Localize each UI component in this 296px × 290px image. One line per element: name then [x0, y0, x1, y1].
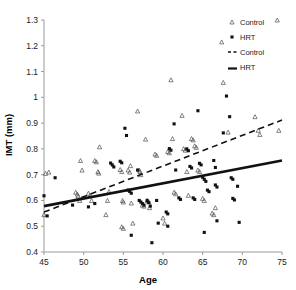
data-point-control	[143, 137, 147, 141]
data-point-control	[47, 170, 51, 174]
data-point-hrt	[173, 122, 176, 125]
data-point-hrt	[169, 149, 172, 152]
y-tick-label: 0.9	[26, 118, 38, 128]
data-point-control	[90, 198, 94, 202]
y-tick-label: 1	[33, 92, 38, 102]
data-point-control	[161, 216, 165, 220]
data-point-hrt	[123, 127, 126, 130]
data-point-hrt	[215, 185, 218, 188]
data-point-control	[121, 200, 125, 204]
trendline-hrt-solid	[44, 160, 282, 206]
x-axis-ticks: 45505560657075	[39, 252, 287, 267]
y-tick-label: 0.4	[26, 247, 38, 257]
chart-legend: ControlHRTControlHRT	[228, 18, 265, 72]
data-point-control	[80, 168, 84, 172]
y-tick-label: 1.3	[26, 15, 38, 25]
data-point-control	[275, 18, 279, 22]
data-point-control	[213, 206, 217, 210]
chart-container: 45505560657075 0.40.50.60.70.80.911.11.2…	[0, 0, 296, 290]
data-point-hrt	[187, 149, 190, 152]
legend-label: Control	[240, 18, 265, 27]
data-point-hrt	[236, 185, 239, 188]
y-axis-title: IMT (mm)	[3, 114, 14, 156]
data-point-hrt	[196, 109, 199, 112]
data-point-hrt	[150, 241, 153, 244]
data-point-hrt	[130, 192, 133, 195]
data-point-hrt	[87, 205, 90, 208]
data-point-hrt	[174, 168, 177, 171]
data-point-control	[186, 193, 190, 197]
y-tick-label: 0.5	[26, 221, 38, 231]
data-point-hrt	[215, 219, 218, 222]
data-point-hrt	[46, 214, 49, 217]
data-point-control	[170, 137, 174, 141]
y-axis-ticks: 0.40.50.60.70.80.911.11.21.3	[26, 15, 44, 257]
data-point-hrt	[166, 212, 169, 215]
y-tick-label: 0.8	[26, 144, 38, 154]
scatter-plot: 45505560657075 0.40.50.60.70.80.911.11.2…	[0, 0, 296, 290]
data-point-control	[258, 132, 262, 136]
data-point-hrt	[204, 180, 207, 183]
data-point-hrt	[125, 134, 128, 137]
data-point-control	[253, 115, 257, 119]
data-point-control	[221, 80, 225, 84]
x-tick-label: 45	[39, 257, 49, 267]
data-point-hrt	[112, 165, 115, 168]
data-point-hrt	[136, 168, 139, 171]
legend-label: HRT	[240, 33, 256, 42]
data-point-hrt	[200, 163, 203, 166]
x-tick-label: 75	[277, 257, 287, 267]
x-axis-title: Age	[139, 274, 157, 285]
data-point-hrt	[230, 35, 233, 38]
data-point-control	[104, 213, 108, 217]
x-tick-label: 50	[79, 257, 89, 267]
data-point-hrt	[166, 225, 169, 228]
data-point-control	[277, 128, 281, 132]
data-point-hrt	[147, 201, 150, 204]
data-point-hrt	[179, 198, 182, 201]
x-tick-label: 55	[119, 257, 129, 267]
data-point-control	[129, 201, 133, 205]
data-point-control	[78, 158, 82, 162]
data-point-hrt	[212, 159, 215, 162]
trend-lines	[44, 120, 282, 212]
data-point-hrt	[222, 131, 225, 134]
data-point-hrt	[214, 166, 217, 169]
data-point-hrt	[142, 204, 145, 207]
data-point-hrt	[190, 166, 193, 169]
data-point-hrt	[228, 115, 231, 118]
data-point-control	[136, 109, 140, 113]
data-point-control	[169, 78, 173, 82]
data-point-control	[180, 113, 184, 117]
data-point-control	[131, 221, 135, 225]
data-point-hrt	[120, 161, 123, 164]
data-point-hrt	[225, 94, 228, 97]
data-point-control	[128, 164, 132, 168]
data-point-hrt	[207, 190, 210, 193]
data-point-control	[185, 170, 189, 174]
data-point-hrt	[155, 199, 158, 202]
x-tick-label: 60	[158, 257, 168, 267]
data-point-control	[97, 145, 101, 149]
data-point-hrt	[203, 231, 206, 234]
data-point-hrt	[193, 198, 196, 201]
x-tick-label: 70	[238, 257, 248, 267]
data-point-control	[162, 221, 166, 225]
x-tick-label: 65	[198, 257, 208, 267]
legend-label: Control	[240, 48, 265, 57]
data-point-hrt	[149, 205, 152, 208]
data-point-control	[220, 40, 224, 44]
data-point-hrt	[238, 221, 241, 224]
data-point-hrt	[42, 194, 45, 197]
data-point-control	[105, 198, 109, 202]
data-point-control	[97, 171, 101, 175]
data-point-hrt	[71, 204, 74, 207]
y-tick-label: 0.6	[26, 195, 38, 205]
data-point-hrt	[157, 222, 160, 225]
data-point-hrt	[54, 176, 57, 179]
data-point-hrt	[233, 198, 236, 201]
data-point-hrt	[231, 178, 234, 181]
series-hrt	[42, 94, 240, 244]
legend-label: HRT	[240, 63, 256, 72]
data-point-control	[226, 130, 230, 134]
